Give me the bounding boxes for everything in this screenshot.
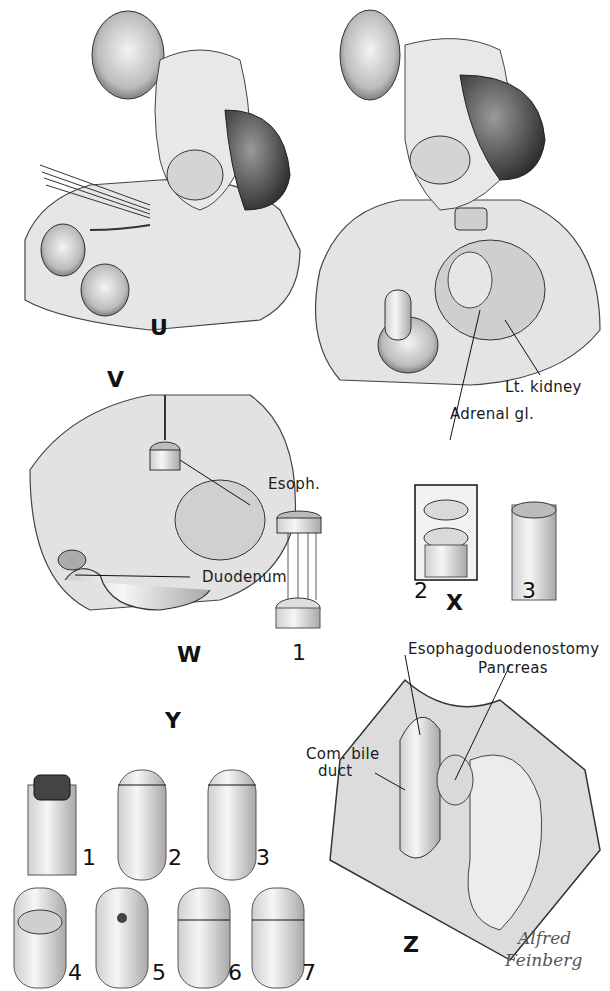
y-step-5: 5: [152, 960, 166, 985]
y-step-3: 3: [256, 845, 270, 870]
label-esophagus: Esoph.: [268, 475, 320, 493]
label-adrenal-gland: Adrenal gl.: [450, 405, 534, 423]
label-duodenum: Duodenum: [202, 568, 287, 586]
y-step-7: 7: [302, 960, 316, 985]
y-step-4: 4: [68, 960, 82, 985]
panel-z-drawing: [330, 655, 600, 960]
label-common-bile-duct-line2: duct: [318, 762, 352, 780]
panel-v-drawing: [316, 10, 601, 440]
surgical-illustration: [0, 0, 610, 991]
signature-line2: Feinberg: [505, 950, 582, 970]
x-step-1: 1: [292, 640, 306, 665]
y-step-2: 2: [168, 845, 182, 870]
x-step-3: 3: [522, 578, 536, 603]
panel-x-drawing: [276, 485, 556, 628]
panel-label-u: U: [150, 315, 168, 340]
panel-label-x: X: [446, 590, 463, 615]
label-pancreas: Pancreas: [478, 659, 548, 677]
y-step-1: 1: [82, 845, 96, 870]
panel-label-y: Y: [165, 708, 181, 733]
y-step-6: 6: [228, 960, 242, 985]
panel-label-w: W: [177, 642, 201, 667]
panel-label-v: V: [107, 367, 124, 392]
panel-y-drawing: [14, 770, 304, 988]
panel-u-drawing: [25, 11, 300, 330]
label-esophagoduodenostomy: Esophagoduodenostomy: [408, 640, 599, 658]
panel-label-z: Z: [403, 932, 419, 957]
label-lt-kidney: Lt. kidney: [505, 378, 582, 396]
signature-line1: Alfred: [518, 928, 571, 948]
label-common-bile-duct-line1: Com. bile: [306, 745, 380, 763]
x-step-2: 2: [414, 578, 428, 603]
